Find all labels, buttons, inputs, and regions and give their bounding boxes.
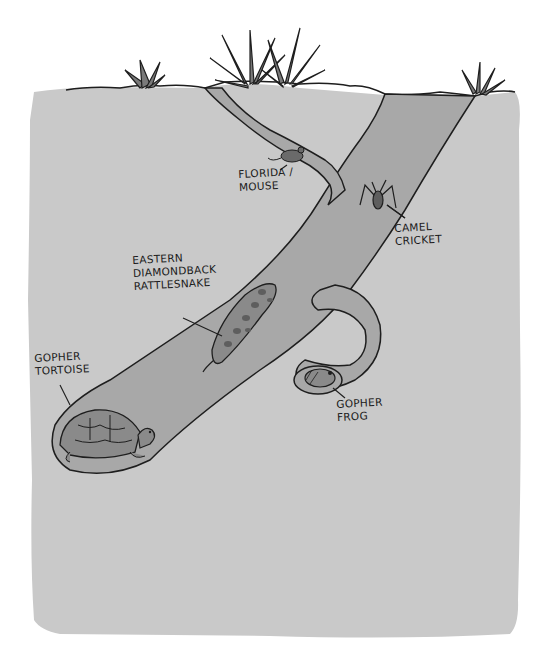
label-camel-cricket: CAMEL CRICKET xyxy=(394,220,442,248)
grass-clump-center xyxy=(210,28,325,88)
label-florida-mouse: FLORIDA / MOUSE xyxy=(238,165,294,194)
burrow-illustration xyxy=(0,0,546,666)
label-gopher-tortoise: GOPHER TORTOISE xyxy=(34,349,90,378)
grass-clump-left xyxy=(125,60,165,88)
label-gopher-frog: GOPHER FROG xyxy=(336,396,384,424)
gopher-frog-illustration xyxy=(305,369,335,387)
label-rattlesnake: EASTERN DIAMONDBACK RATTLESNAKE xyxy=(132,250,217,293)
grass-clump-right xyxy=(462,62,505,95)
